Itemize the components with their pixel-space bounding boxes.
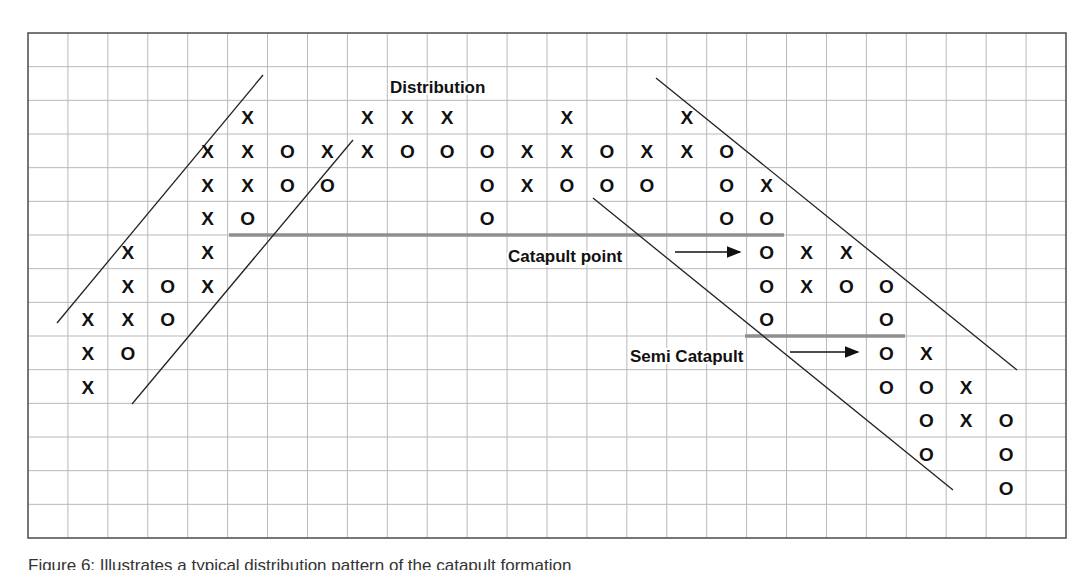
x-mark: X — [521, 175, 534, 196]
x-mark: X — [82, 377, 95, 398]
o-mark: O — [719, 175, 734, 196]
x-mark: X — [680, 141, 693, 162]
x-mark: X — [201, 175, 214, 196]
x-mark: X — [521, 141, 534, 162]
o-mark: O — [759, 208, 774, 229]
o-mark: O — [440, 141, 455, 162]
x-mark: X — [920, 343, 933, 364]
x-mark: X — [82, 309, 95, 330]
o-mark: O — [719, 141, 734, 162]
o-mark: O — [999, 444, 1014, 465]
x-mark: X — [121, 309, 134, 330]
x-mark: X — [441, 107, 454, 128]
x-mark: X — [800, 276, 813, 297]
o-mark: O — [280, 175, 295, 196]
grid — [28, 33, 1066, 538]
x-mark: X — [241, 107, 254, 128]
o-mark: O — [879, 377, 894, 398]
o-mark: O — [879, 276, 894, 297]
o-mark: O — [560, 175, 575, 196]
x-mark: X — [640, 141, 653, 162]
o-mark: O — [999, 478, 1014, 499]
o-mark: O — [320, 175, 335, 196]
x-mark: X — [201, 141, 214, 162]
point-and-figure-chart: XXXXXXOOOXXXXXXXXOOOXOXXXOXOOOOXXXXOOOXO… — [0, 0, 1090, 570]
o-mark: O — [719, 208, 734, 229]
o-mark: O — [280, 141, 295, 162]
catapult-point-label: Catapult point — [508, 247, 623, 266]
x-mark: X — [241, 141, 254, 162]
x-mark: X — [561, 107, 574, 128]
o-mark: O — [919, 410, 934, 431]
x-mark: X — [321, 141, 334, 162]
x-mark: X — [680, 107, 693, 128]
x-mark: X — [241, 175, 254, 196]
semi-catapult-label: Semi Catapult — [630, 347, 744, 366]
figure-caption: Figure 6: Illustrates a typical distribu… — [28, 556, 571, 570]
o-mark: O — [999, 410, 1014, 431]
o-mark: O — [879, 343, 894, 364]
o-mark: O — [599, 141, 614, 162]
o-mark: O — [160, 309, 175, 330]
x-mark: X — [201, 276, 214, 297]
o-mark: O — [480, 175, 495, 196]
o-mark: O — [639, 175, 654, 196]
x-mark: X — [760, 175, 773, 196]
distribution-label: Distribution — [390, 78, 485, 97]
o-mark: O — [240, 208, 255, 229]
o-mark: O — [879, 309, 894, 330]
o-mark: O — [759, 309, 774, 330]
x-mark: X — [361, 141, 374, 162]
x-mark: X — [361, 107, 374, 128]
annotations: DistributionCatapult pointSemi Catapult — [390, 78, 858, 366]
o-mark: O — [599, 175, 614, 196]
x-mark: X — [401, 107, 414, 128]
x-mark: X — [561, 141, 574, 162]
o-mark: O — [160, 276, 175, 297]
o-mark: O — [759, 242, 774, 263]
o-mark: O — [839, 276, 854, 297]
o-mark: O — [120, 343, 135, 364]
x-mark: X — [201, 208, 214, 229]
o-mark: O — [400, 141, 415, 162]
o-mark: O — [919, 377, 934, 398]
x-mark: X — [201, 242, 214, 263]
x-mark: X — [82, 343, 95, 364]
downtrend-upper — [656, 78, 1017, 370]
chart-canvas: XXXXXXOOOXXXXXXXXOOOXOXXXOXOOOOXXXXOOOXO… — [0, 0, 1090, 570]
o-mark: O — [480, 141, 495, 162]
x-mark: X — [800, 242, 813, 263]
x-mark: X — [960, 410, 973, 431]
x-mark: X — [960, 377, 973, 398]
o-mark: O — [759, 276, 774, 297]
x-mark: X — [840, 242, 853, 263]
x-mark: X — [121, 242, 134, 263]
x-mark: X — [121, 276, 134, 297]
o-mark: O — [480, 208, 495, 229]
o-mark: O — [919, 444, 934, 465]
